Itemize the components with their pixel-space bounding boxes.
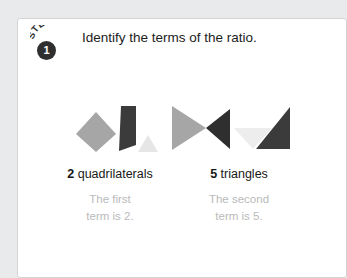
step-badge: STEP 1 [30, 25, 78, 63]
count-noun-triangles: triangles [221, 167, 268, 181]
step-number-badge: 1 [37, 41, 56, 60]
label-column-quadrilaterals: 2 quadrilaterals The first term is 2. [40, 167, 180, 225]
shapes-row [18, 97, 346, 159]
dark-gray-trapezoid-shape [119, 106, 136, 151]
caption-line1-triangles: The second [178, 191, 300, 208]
step-word-arc: STEP [30, 25, 78, 45]
quadrilaterals-shape-art [58, 97, 158, 159]
step-header: STEP 1 Identify the terms of the ratio. [18, 19, 346, 63]
count-noun-quadrilaterals: quadrilaterals [78, 167, 153, 181]
shape-group-triangles [168, 97, 293, 159]
caption-quadrilaterals: The first term is 2. [40, 191, 180, 225]
caption-line2-triangles: term is 5. [178, 208, 300, 225]
label-column-triangles: 5 triangles The second term is 5. [178, 167, 300, 225]
gray-right-triangle-shape [172, 106, 206, 150]
step-word-text: STEP [30, 25, 53, 40]
caption-line1-quadrilaterals: The first [40, 191, 180, 208]
count-line-quadrilaterals: 2 quadrilaterals [40, 167, 180, 181]
step-title: Identify the terms of the ratio. [82, 30, 257, 45]
shape-group-quadrilaterals [58, 97, 158, 159]
gray-diamond-shape [76, 112, 116, 152]
light-gray-triangle-shape [138, 135, 158, 152]
caption-triangles: The second term is 5. [178, 191, 300, 225]
dark-left-triangle-shape [206, 109, 230, 149]
triangles-shape-art [168, 97, 293, 159]
count-line-triangles: 5 triangles [178, 167, 300, 181]
caption-line2-quadrilaterals: term is 2. [40, 208, 180, 225]
svg-text:STEP: STEP [30, 25, 53, 40]
step-card: STEP 1 Identify the terms of the ratio. [17, 18, 347, 278]
